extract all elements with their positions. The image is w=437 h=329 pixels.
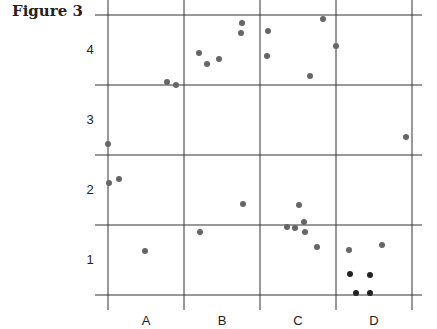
- data-point: [216, 56, 222, 62]
- data-point: [403, 134, 409, 140]
- data-point: [333, 43, 339, 49]
- x-label-c: C: [288, 313, 308, 328]
- data-point: [173, 82, 179, 88]
- data-point-dark: [353, 290, 359, 296]
- data-point-dark: [347, 271, 353, 277]
- x-label-d: D: [364, 313, 384, 328]
- data-point: [296, 202, 302, 208]
- data-point: [379, 242, 385, 248]
- data-point: [164, 79, 170, 85]
- scatter-grid: [0, 0, 437, 329]
- data-point: [265, 28, 271, 34]
- y-label-4: 4: [80, 42, 100, 57]
- data-point-dark: [367, 290, 373, 296]
- data-point: [197, 229, 203, 235]
- data-point: [320, 16, 326, 22]
- data-point: [116, 176, 122, 182]
- data-point: [314, 244, 320, 250]
- data-point-dark: [367, 272, 373, 278]
- data-point: [105, 141, 111, 147]
- y-label-1: 1: [80, 252, 100, 267]
- data-point: [302, 229, 308, 235]
- data-point: [301, 219, 307, 225]
- data-point: [196, 50, 202, 56]
- x-label-b: B: [212, 313, 232, 328]
- data-point: [240, 201, 246, 207]
- data-point: [238, 30, 244, 36]
- data-point: [284, 224, 290, 230]
- y-label-3: 3: [80, 112, 100, 127]
- data-point: [264, 53, 270, 59]
- data-point: [307, 73, 313, 79]
- data-point: [106, 180, 112, 186]
- data-point: [346, 247, 352, 253]
- data-point: [204, 61, 210, 67]
- data-point: [239, 20, 245, 26]
- y-label-2: 2: [80, 182, 100, 197]
- data-point: [142, 248, 148, 254]
- x-label-a: A: [136, 313, 156, 328]
- data-point: [292, 225, 298, 231]
